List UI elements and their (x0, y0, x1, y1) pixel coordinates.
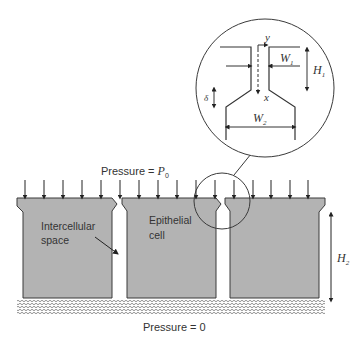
epithelium-diagram: Pressure = P0 Intercellular space Epithe… (0, 0, 363, 342)
basement-wave-line (17, 300, 325, 302)
pressure-arrows (25, 180, 308, 197)
epithelial-label-line2: cell (149, 229, 165, 241)
intercellular-label-line1: Intercellular (41, 220, 96, 232)
epithelial-label-line1: Epithelial (149, 214, 192, 226)
bottom-pressure-label: Pressure = 0 (143, 321, 206, 333)
basement-wave-line (17, 309, 325, 311)
magnifier-connector (234, 154, 251, 175)
cell-right (225, 198, 325, 298)
h2-label: H2 (336, 251, 350, 267)
basement-wave-line (17, 312, 325, 314)
y-axis-label: y (264, 31, 270, 43)
cell-middle (122, 198, 221, 298)
intercellular-label-line2: space (41, 234, 69, 246)
basement-wave-line (17, 306, 325, 308)
top-pressure-label: Pressure = P0 (101, 164, 169, 179)
epithelial-cells (17, 198, 325, 298)
x-axis-label: x (263, 91, 269, 103)
inset-detail: y x W1 H1 δ W2 (196, 19, 334, 157)
basement-wave-line (17, 303, 325, 305)
basement-layer (17, 300, 325, 314)
cell-left (17, 198, 117, 298)
